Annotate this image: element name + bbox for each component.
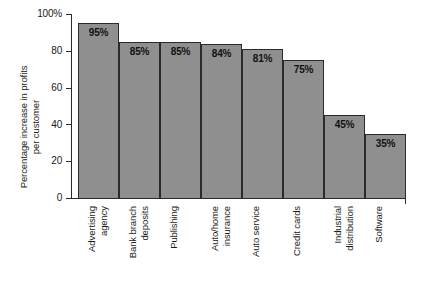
bar-value-label: 84% [202, 48, 241, 59]
bar-value-label: 85% [161, 46, 200, 57]
bar-chart: Percentage increase in profits per custo… [0, 0, 424, 285]
x-label-line-1: Auto/home [209, 206, 221, 251]
x-axis-label-software: Software [373, 204, 413, 285]
x-label-line-1: Software [373, 206, 385, 243]
bar-auto-service: 81% [242, 49, 283, 199]
x-axis-label-bank-branch-deposits: Bank branch deposits [127, 204, 167, 285]
x-axis-label-auto-service: Auto service [250, 204, 290, 285]
bar-value-label: 95% [79, 27, 118, 38]
x-label-line-1: Credit cards [291, 206, 303, 256]
x-label-line-1: Advertising [86, 206, 98, 252]
bar-advertising-agency: 95% [78, 23, 119, 199]
x-axis-label-publishing: Publishing [168, 204, 208, 285]
x-axis-label-auto-home-insurance: Auto/home insurance [209, 204, 249, 285]
x-label-line-1: Auto service [250, 206, 262, 257]
bar-value-label: 75% [284, 64, 323, 75]
x-axis-label-advertising-agency: Advertising agency [86, 204, 126, 285]
x-label-line-2: insurance [221, 206, 233, 251]
x-label-line-2: distribution [344, 206, 356, 251]
x-label-line-2: deposits [139, 206, 151, 258]
bar-software: 35% [365, 134, 406, 199]
bar-value-label: 35% [366, 138, 405, 149]
bar-industrial-distribution: 45% [324, 115, 365, 199]
bar-bank-branch-deposits: 85% [119, 42, 160, 199]
bar-value-label: 85% [120, 46, 159, 57]
x-label-line-1: Bank branch [127, 206, 139, 258]
x-label-line-1: Publishing [168, 206, 180, 249]
bar-value-label: 45% [325, 119, 364, 130]
bar-credit-cards: 75% [283, 60, 324, 199]
bar-value-label: 81% [243, 53, 282, 64]
bar-auto-home-insurance: 84% [201, 44, 242, 199]
x-label-line-2: agency [98, 206, 110, 252]
bar-publishing: 85% [160, 42, 201, 199]
x-axis-label-industrial-distribution: Industrial distribution [332, 204, 372, 285]
x-label-line-1: Industrial [332, 206, 344, 251]
x-axis-label-credit-cards: Credit cards [291, 204, 331, 285]
